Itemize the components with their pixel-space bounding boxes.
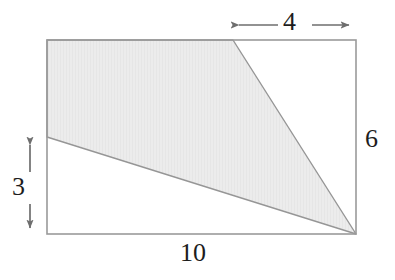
dimension-label-6: 6 [365, 126, 378, 152]
geometry-figure: 4 6 3 10 [0, 0, 395, 280]
dimension-label-3: 3 [12, 174, 25, 200]
shaded-region [47, 40, 356, 234]
dimension-label-4: 4 [283, 9, 296, 35]
dimension-label-10: 10 [180, 240, 206, 266]
